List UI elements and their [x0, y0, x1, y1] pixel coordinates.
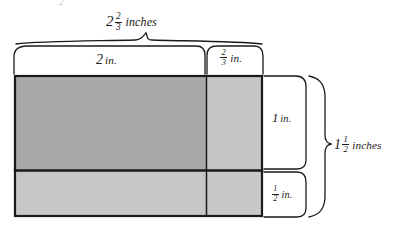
label-right-total: 112inches: [334, 136, 382, 155]
label-right-bottom-fraction: 12: [272, 185, 279, 202]
label-right-bottom-unit: in.: [281, 189, 292, 200]
label-top-right-fraction: 23: [220, 48, 227, 67]
label-top-total: 223inches: [106, 13, 157, 33]
label-top-left-whole: 2: [96, 52, 103, 67]
label-right-top: 1in.: [272, 111, 291, 124]
label-top-left: 2in.: [96, 53, 117, 67]
cell-bottom-left: [15, 171, 206, 216]
label-right-top-whole: 1: [272, 110, 279, 125]
label-right-total-whole: 1: [334, 137, 341, 152]
brace-right-total: [309, 76, 331, 217]
label-right-total-fraction: 12: [342, 135, 349, 154]
label-right-bottom: 12in.: [271, 186, 292, 203]
top-crop-fragment: 2: [59, 0, 64, 7]
diagram-svg: [0, 0, 394, 229]
cell-bottom-right-texture: [206, 171, 262, 216]
label-top-total-whole: 2: [106, 13, 114, 29]
diagram-canvas: 2 223inches 2in. 23in. 1in. 12in. 112inc…: [0, 0, 394, 229]
label-top-total-unit: inches: [126, 15, 157, 29]
label-right-top-unit: in.: [280, 113, 291, 124]
label-top-total-fraction: 23: [115, 12, 123, 32]
label-top-left-unit: in.: [105, 54, 117, 66]
brace-top-total: [16, 33, 262, 44]
label-top-right-unit: in.: [230, 52, 242, 64]
cell-top-left: [15, 76, 206, 170]
label-right-total-unit: inches: [352, 139, 381, 151]
label-top-right: 23in.: [219, 49, 242, 68]
cell-top-right-texture: [206, 76, 262, 170]
